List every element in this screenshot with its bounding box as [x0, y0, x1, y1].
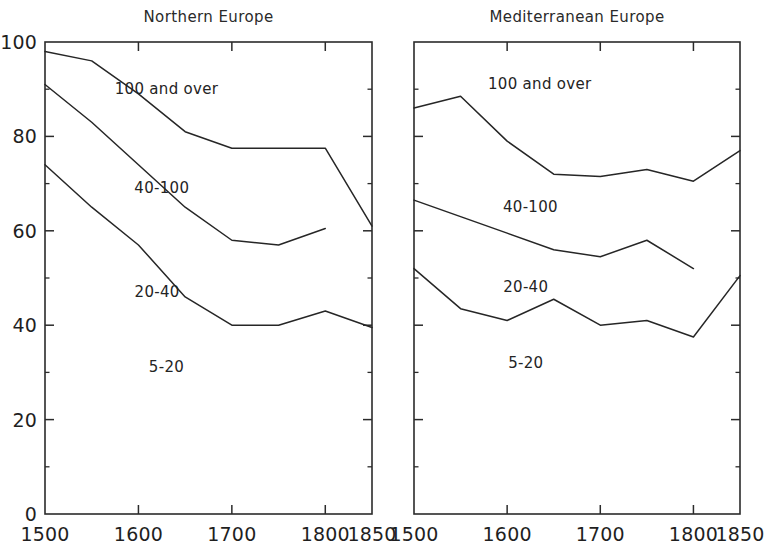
series-line-0 [414, 96, 740, 181]
band-label-20-40: 20-40 [135, 283, 180, 301]
y-tick-label: 80 [12, 125, 37, 147]
plot-frame [414, 42, 740, 514]
x-tick-label: 1700 [576, 523, 625, 545]
band-label-5-20: 5-20 [508, 354, 543, 372]
x-tick-label: 1850 [715, 523, 764, 545]
band-label-100-and-over: 100 and over [115, 80, 219, 98]
x-tick-label: 1500 [389, 523, 438, 545]
figure-root: Northern Europe0204060801001500160017001… [0, 0, 765, 555]
series-line-1 [45, 84, 325, 244]
y-tick-label: 60 [12, 220, 37, 242]
band-label-20-40: 20-40 [503, 278, 548, 296]
plot-frame [45, 42, 372, 514]
x-tick-label: 1800 [669, 523, 718, 545]
y-tick-label: 40 [12, 314, 37, 336]
x-tick-label: 1800 [301, 523, 350, 545]
chart-panel-mediterranean-europe: Mediterranean Europe15001600170018001850… [389, 8, 764, 545]
y-tick-label: 0 [25, 503, 37, 525]
y-tick-label: 20 [12, 409, 37, 431]
band-label-40-100: 40-100 [503, 198, 558, 216]
x-tick-label: 1500 [20, 523, 69, 545]
chart-panel-northern-europe: Northern Europe0204060801001500160017001… [0, 8, 396, 545]
band-label-5-20: 5-20 [149, 358, 184, 376]
x-tick-label: 1700 [207, 523, 256, 545]
band-label-40-100: 40-100 [134, 179, 189, 197]
series-line-0 [45, 51, 372, 226]
series-line-2 [45, 165, 372, 328]
band-label-100-and-over: 100 and over [488, 75, 592, 93]
panel-title: Mediterranean Europe [489, 8, 664, 26]
series-line-2 [414, 269, 740, 337]
chart-canvas: Northern Europe0204060801001500160017001… [0, 0, 765, 555]
x-tick-label: 1600 [114, 523, 163, 545]
x-tick-label: 1600 [483, 523, 532, 545]
panel-title: Northern Europe [143, 8, 273, 26]
y-tick-label: 100 [0, 31, 37, 53]
